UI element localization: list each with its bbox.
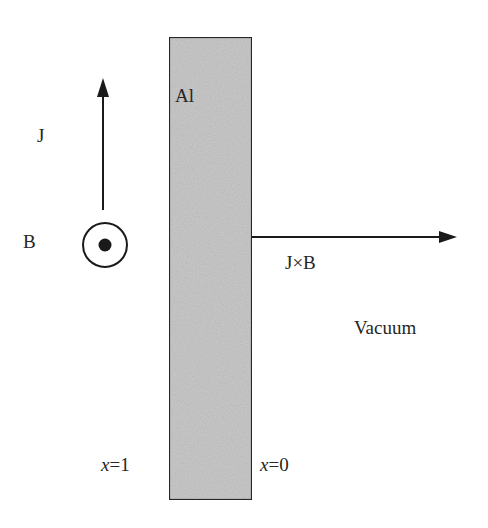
- diagram-canvas: Al J B J×B Vacuum x=1 x=0: [0, 0, 488, 528]
- force-label: J×B: [285, 253, 316, 272]
- left-boundary-label: x=1: [101, 455, 130, 474]
- current-arrow-icon: [97, 78, 109, 210]
- field-out-of-page-icon: [83, 223, 127, 267]
- right-boundary-label: x=0: [260, 455, 289, 474]
- force-arrow-icon: [252, 231, 457, 243]
- diagram-graphics: [0, 0, 488, 528]
- current-label: J: [37, 126, 44, 145]
- aluminum-slab: [169, 37, 252, 500]
- slab-material-label: Al: [175, 86, 194, 105]
- vacuum-label: Vacuum: [354, 318, 416, 337]
- field-label: B: [23, 232, 36, 251]
- left-boundary-value: =1: [109, 454, 129, 475]
- right-boundary-value: =0: [268, 454, 288, 475]
